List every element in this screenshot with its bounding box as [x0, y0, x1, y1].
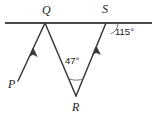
vertex-label-q: Q	[42, 4, 51, 16]
ray-r-to-s	[76, 23, 106, 96]
geometry-diagram: Q S P R 47° 115°	[0, 0, 159, 118]
vertex-label-p: P	[8, 78, 15, 90]
diagram-canvas	[0, 0, 159, 118]
vertex-label-s: S	[102, 3, 108, 15]
vertex-label-r: R	[72, 101, 79, 113]
angle-measure-label-r: 47°	[65, 56, 79, 66]
arrowhead-icon-ray-rs	[92, 46, 100, 54]
angle-measure-label-s: 115°	[115, 27, 134, 37]
